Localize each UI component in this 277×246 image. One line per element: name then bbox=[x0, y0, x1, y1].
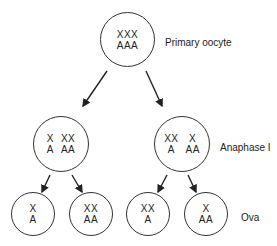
x-chromosomes: X bbox=[29, 203, 36, 214]
anaphase-right-cell: XX A X AA bbox=[154, 116, 210, 172]
autosomes: A bbox=[168, 144, 175, 155]
autosomes: AA bbox=[61, 144, 75, 155]
autosomes: AA bbox=[186, 144, 200, 155]
anaphase-left-cell: X A XX AA bbox=[33, 116, 89, 172]
autosomes: AAA bbox=[117, 40, 139, 51]
x-chromosomes: XX bbox=[164, 133, 178, 144]
arrow-right-to-ovum4 bbox=[188, 175, 196, 192]
autosomes: AA bbox=[84, 214, 98, 225]
anaphase-label: Anaphase I bbox=[220, 142, 271, 153]
x-chromosomes: X bbox=[47, 133, 54, 144]
arrow-left-to-ovum2 bbox=[72, 175, 82, 192]
primary-oocyte-cell: XXX AAA bbox=[100, 12, 155, 67]
x-chromosomes: XX bbox=[61, 133, 75, 144]
ova-label: Ova bbox=[241, 212, 259, 223]
arrow-primary-to-left bbox=[83, 71, 107, 106]
autosomes: A bbox=[144, 214, 151, 225]
autosomes: AA bbox=[199, 214, 213, 225]
arrow-primary-to-right bbox=[146, 71, 162, 106]
autosomes: A bbox=[47, 144, 54, 155]
ovum-2-cell: XX AA bbox=[69, 192, 113, 236]
x-chromosomes: XX bbox=[84, 203, 98, 214]
x-chromosomes: X bbox=[189, 133, 196, 144]
ovum-3-cell: XX A bbox=[126, 192, 170, 236]
arrow-right-to-ovum3 bbox=[158, 175, 167, 192]
ovum-1-cell: X A bbox=[11, 192, 55, 236]
ovum-4-cell: X AA bbox=[184, 192, 228, 236]
x-chromosomes: XXX bbox=[117, 29, 139, 40]
x-chromosomes: XX bbox=[141, 203, 155, 214]
x-chromosomes: X bbox=[202, 203, 209, 214]
arrow-left-to-ovum1 bbox=[42, 175, 50, 192]
autosomes: A bbox=[29, 214, 36, 225]
primary-oocyte-label: Primary oocyte bbox=[165, 37, 232, 48]
